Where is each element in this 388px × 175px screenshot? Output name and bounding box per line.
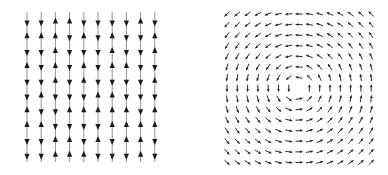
vector-arrow-icon bbox=[236, 85, 239, 92]
vector-arrow-icon bbox=[348, 43, 352, 48]
vector-arrow-icon bbox=[285, 55, 292, 58]
vector-arrow-icon bbox=[266, 64, 270, 70]
vector-arrow-icon bbox=[358, 149, 363, 154]
vector-arrow-icon bbox=[329, 95, 332, 102]
vector-arrow-icon bbox=[275, 44, 281, 47]
arrow-up-icon bbox=[24, 62, 29, 68]
vector-arrow-icon bbox=[370, 117, 373, 123]
vector-arrow-icon bbox=[296, 97, 303, 100]
vector-arrow-icon bbox=[226, 85, 229, 92]
arrow-up-icon bbox=[152, 32, 157, 38]
vector-arrow-icon bbox=[256, 74, 259, 81]
vector-arrow-icon bbox=[275, 129, 281, 132]
vector-arrow-icon bbox=[256, 54, 260, 59]
arrow-up-icon bbox=[81, 77, 86, 83]
vector-arrow-icon bbox=[339, 106, 342, 112]
vector-arrow-icon bbox=[246, 53, 250, 59]
arrow-down-icon bbox=[24, 95, 29, 101]
arrow-down-icon bbox=[67, 35, 72, 41]
vector-arrow-icon bbox=[225, 149, 230, 154]
arrow-down-icon bbox=[39, 50, 44, 56]
vector-arrow-icon bbox=[285, 13, 292, 16]
arrow-up-icon bbox=[110, 121, 115, 127]
vector-arrow-icon bbox=[225, 64, 228, 71]
arrow-down-icon bbox=[124, 154, 129, 160]
vector-arrow-icon bbox=[369, 138, 373, 144]
vector-arrow-icon bbox=[328, 117, 333, 122]
vector-arrow-icon bbox=[236, 64, 239, 71]
vector-arrow-icon bbox=[369, 22, 374, 27]
arrow-up-icon bbox=[67, 18, 72, 24]
vector-arrow-icon bbox=[369, 160, 374, 165]
arrow-up-icon bbox=[24, 121, 29, 127]
vector-arrow-icon bbox=[316, 23, 323, 26]
vector-arrow-icon bbox=[285, 161, 292, 164]
vector-arrow-icon bbox=[287, 85, 290, 92]
vector-arrow-icon bbox=[225, 32, 229, 38]
arrow-down-icon bbox=[110, 154, 115, 160]
arrow-down-icon bbox=[24, 50, 29, 56]
vector-arrow-icon bbox=[236, 53, 239, 59]
vector-arrow-icon bbox=[265, 13, 272, 16]
vector-arrow-icon bbox=[339, 95, 342, 102]
arrow-down-icon bbox=[81, 21, 86, 27]
vector-arrow-icon bbox=[306, 65, 312, 69]
arrow-up-icon bbox=[152, 121, 157, 127]
vector-arrow-icon bbox=[338, 33, 343, 37]
vector-arrow-icon bbox=[359, 33, 363, 38]
vector-arrow-icon bbox=[296, 23, 303, 26]
vector-arrow-icon bbox=[255, 23, 261, 27]
vector-arrow-icon bbox=[236, 95, 239, 102]
vector-arrow-icon bbox=[266, 54, 271, 59]
vector-arrow-icon bbox=[265, 150, 271, 153]
vector-arrow-icon bbox=[306, 12, 313, 15]
vector-arrow-icon bbox=[285, 151, 292, 154]
vector-arrow-icon bbox=[316, 161, 323, 164]
vector-arrow-icon bbox=[245, 128, 250, 133]
vector-arrow-icon bbox=[349, 74, 352, 81]
vector-arrow-icon bbox=[358, 160, 363, 165]
vector-arrow-icon bbox=[327, 128, 333, 132]
arrow-down-icon bbox=[39, 21, 44, 27]
vector-arrow-icon bbox=[296, 66, 303, 69]
vector-arrow-icon bbox=[275, 118, 281, 122]
vector-arrow-icon bbox=[337, 23, 343, 27]
arrow-down-icon bbox=[138, 80, 143, 86]
vector-arrow-icon bbox=[337, 150, 343, 154]
arrow-up-icon bbox=[53, 62, 58, 68]
vector-arrow-icon bbox=[369, 149, 374, 154]
arrow-down-icon bbox=[39, 80, 44, 86]
vector-arrow-icon bbox=[285, 45, 292, 48]
arrow-down-icon bbox=[24, 139, 29, 145]
vector-arrow-icon bbox=[286, 66, 293, 69]
arrow-down-icon bbox=[95, 50, 100, 56]
vector-arrow-icon bbox=[296, 119, 303, 122]
vector-arrow-icon bbox=[246, 64, 249, 70]
arrow-down-icon bbox=[24, 21, 29, 27]
vector-arrow-icon bbox=[348, 12, 354, 16]
vector-arrow-icon bbox=[257, 95, 260, 102]
arrow-down-icon bbox=[81, 139, 86, 145]
vector-arrow-icon bbox=[359, 117, 362, 123]
arrow-up-icon bbox=[138, 136, 143, 142]
arrow-up-icon bbox=[95, 92, 100, 98]
arrow-down-icon bbox=[95, 80, 100, 86]
vector-arrow-icon bbox=[369, 32, 373, 38]
vector-arrow-icon bbox=[275, 24, 282, 27]
arrow-up-icon bbox=[67, 106, 72, 112]
arrow-down-icon bbox=[152, 139, 157, 145]
arrow-up-icon bbox=[138, 121, 143, 127]
vector-arrow-icon bbox=[339, 64, 342, 70]
vortex-field-panel bbox=[194, 0, 388, 175]
arrow-down-icon bbox=[39, 109, 44, 115]
arrow-up-icon bbox=[110, 62, 115, 68]
arrow-up-icon bbox=[53, 18, 58, 24]
arrow-up-icon bbox=[81, 62, 86, 68]
vector-arrow-icon bbox=[275, 140, 282, 143]
arrow-up-icon bbox=[152, 77, 157, 83]
vector-arrow-icon bbox=[338, 128, 343, 133]
vector-arrow-icon bbox=[348, 22, 353, 27]
vector-arrow-icon bbox=[245, 43, 250, 48]
arrow-up-icon bbox=[124, 62, 129, 68]
vector-arrow-icon bbox=[327, 150, 333, 153]
